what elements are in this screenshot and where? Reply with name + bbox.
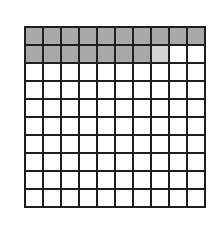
empty-cell (44, 82, 60, 98)
shaded-cell (62, 46, 78, 62)
empty-cell (170, 136, 186, 152)
empty-cell (44, 136, 60, 152)
shaded-cell (80, 46, 96, 62)
empty-cell (80, 100, 96, 116)
empty-cell (62, 82, 78, 98)
shaded-cell (98, 46, 114, 62)
empty-cell (152, 64, 168, 80)
empty-cell (152, 172, 168, 188)
shaded-cell (98, 28, 114, 44)
empty-cell (152, 100, 168, 116)
partially-shaded-cell (152, 46, 168, 62)
empty-cell (188, 172, 204, 188)
empty-cell (98, 64, 114, 80)
empty-cell (152, 136, 168, 152)
empty-cell (80, 118, 96, 134)
empty-cell (170, 172, 186, 188)
empty-cell (134, 190, 150, 206)
empty-cell (188, 82, 204, 98)
empty-cell (80, 82, 96, 98)
empty-cell (26, 118, 42, 134)
empty-cell (188, 100, 204, 116)
empty-cell (152, 190, 168, 206)
empty-cell (80, 172, 96, 188)
empty-cell (188, 64, 204, 80)
empty-cell (134, 154, 150, 170)
empty-cell (116, 82, 132, 98)
empty-cell (80, 136, 96, 152)
empty-cell (170, 100, 186, 116)
empty-cell (26, 190, 42, 206)
empty-cell (44, 118, 60, 134)
empty-cell (62, 100, 78, 116)
empty-cell (152, 118, 168, 134)
empty-cell (188, 190, 204, 206)
empty-cell (26, 172, 42, 188)
empty-cell (98, 118, 114, 134)
empty-cell (134, 64, 150, 80)
empty-cell (98, 190, 114, 206)
empty-cell (26, 100, 42, 116)
shaded-cell (134, 28, 150, 44)
empty-cell (62, 64, 78, 80)
empty-cell (62, 172, 78, 188)
empty-cell (152, 82, 168, 98)
empty-cell (134, 118, 150, 134)
shaded-cell (188, 28, 204, 44)
empty-cell (98, 172, 114, 188)
empty-cell (98, 136, 114, 152)
empty-cell (80, 154, 96, 170)
empty-cell (44, 172, 60, 188)
empty-cell (152, 154, 168, 170)
empty-cell (26, 82, 42, 98)
empty-cell (62, 190, 78, 206)
empty-cell (26, 136, 42, 152)
shaded-cell (152, 28, 168, 44)
empty-cell (26, 64, 42, 80)
empty-cell (170, 190, 186, 206)
empty-cell (170, 118, 186, 134)
shaded-cell (80, 28, 96, 44)
empty-cell (116, 190, 132, 206)
empty-cell (62, 136, 78, 152)
empty-cell (44, 64, 60, 80)
empty-cell (116, 64, 132, 80)
empty-cell (170, 46, 186, 62)
shaded-cell (44, 28, 60, 44)
empty-cell (188, 154, 204, 170)
shaded-cell (170, 28, 186, 44)
empty-cell (98, 82, 114, 98)
empty-cell (134, 136, 150, 152)
empty-cell (98, 154, 114, 170)
empty-cell (188, 46, 204, 62)
empty-cell (116, 172, 132, 188)
empty-cell (44, 100, 60, 116)
shaded-cell (26, 46, 42, 62)
empty-cell (116, 136, 132, 152)
shaded-cell (116, 28, 132, 44)
empty-cell (170, 82, 186, 98)
empty-cell (170, 64, 186, 80)
empty-cell (116, 154, 132, 170)
empty-cell (188, 136, 204, 152)
empty-cell (116, 118, 132, 134)
empty-cell (62, 118, 78, 134)
empty-cell (80, 190, 96, 206)
empty-cell (44, 154, 60, 170)
shaded-cell (44, 46, 60, 62)
empty-cell (134, 172, 150, 188)
hundred-grid (24, 26, 206, 208)
shaded-cell (26, 28, 42, 44)
empty-cell (80, 64, 96, 80)
empty-cell (134, 100, 150, 116)
empty-cell (170, 154, 186, 170)
empty-cell (62, 154, 78, 170)
empty-cell (44, 190, 60, 206)
shaded-cell (62, 28, 78, 44)
empty-cell (26, 154, 42, 170)
empty-cell (188, 118, 204, 134)
empty-cell (98, 100, 114, 116)
empty-cell (116, 100, 132, 116)
empty-cell (134, 82, 150, 98)
shaded-cell (116, 46, 132, 62)
